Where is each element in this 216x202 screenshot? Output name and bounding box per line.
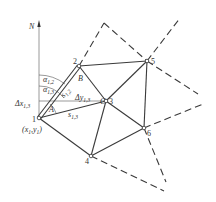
triangulation-diagram: N 1 2 3 4	[0, 0, 216, 202]
point-1	[37, 116, 41, 120]
point-1-label: 1	[32, 115, 36, 124]
point-5	[145, 59, 149, 63]
s13-label: s1,3	[68, 110, 78, 120]
delta-y-label: Δy1,3	[74, 93, 90, 103]
point-4	[89, 154, 93, 158]
alpha-12-label: α1,2	[43, 75, 54, 85]
north-label: N	[28, 22, 35, 31]
point-6	[142, 126, 146, 130]
angle-b-label: B	[78, 74, 83, 83]
angle-c-label: C	[100, 97, 106, 106]
point-6-label: 6	[147, 129, 151, 138]
point-2-label: 2	[73, 57, 77, 66]
coord-label: (x1,y1)	[22, 125, 42, 135]
delta-x-label: Δx1,3	[14, 99, 30, 109]
point-5-label: 5	[151, 57, 155, 66]
dashed-edges	[79, 18, 203, 191]
alpha-13-label: α1,3	[43, 85, 54, 95]
point-2	[77, 64, 81, 68]
point-3-label: 3	[109, 97, 113, 106]
point-4-label: 4	[85, 157, 89, 166]
angle-a-label: A	[48, 105, 54, 114]
